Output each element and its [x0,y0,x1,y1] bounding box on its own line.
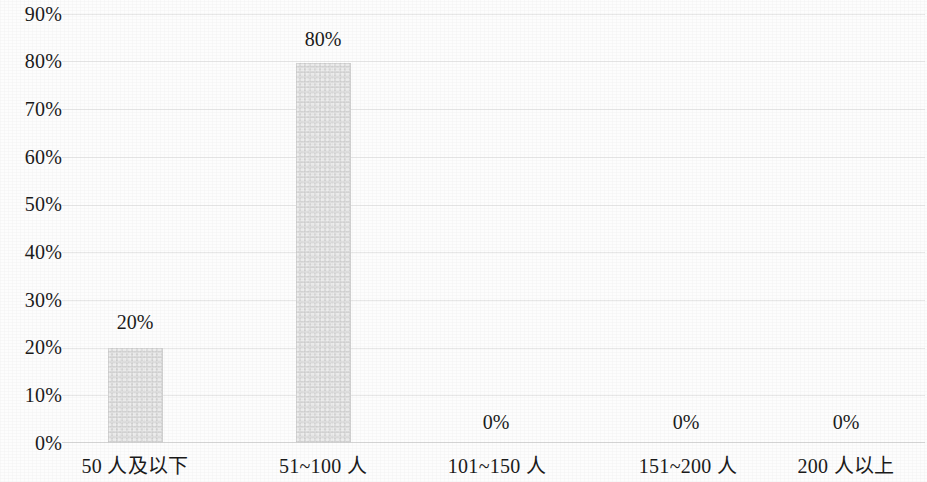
x-tick-label-1: 50 人及以下 [81,455,188,477]
bar-category-2 [296,63,351,443]
gridline-90 [62,14,925,15]
gridline-10 [62,395,925,396]
y-tick-label-40: 40% [4,242,62,262]
y-tick-label-50: 50% [4,194,62,214]
bar-category-1 [108,348,163,443]
bar-value-label-5: 0% [833,411,860,433]
gridline-50 [62,205,925,206]
bar-value-label-2: 80% [305,28,342,50]
x-tick-label-2: 51~100 人 [279,455,367,477]
gridline-30 [62,300,925,301]
gridline-80 [62,61,925,62]
y-axis: 90% 80% 70% 60% 50% 40% 30% 20% 10% 0% [0,0,62,482]
gridline-70 [62,109,925,110]
gridline-baseline-0 [62,442,925,443]
y-tick-label-30: 30% [4,290,62,310]
y-tick-label-90: 90% [4,4,62,24]
y-tick-label-0: 0% [4,433,62,453]
plot-area [62,14,925,443]
y-tick-label-60: 60% [4,147,62,167]
gridline-60 [62,157,925,158]
y-tick-label-80: 80% [4,51,62,71]
gridline-20 [62,348,925,349]
bar-value-label-4: 0% [673,411,700,433]
x-tick-label-4: 151~200 人 [639,455,738,477]
x-tick-label-3: 101~150 人 [448,455,547,477]
y-tick-label-10: 10% [4,385,62,405]
x-tick-label-5: 200 人以上 [797,455,894,477]
gridline-40 [62,252,925,253]
y-tick-label-20: 20% [4,337,62,357]
bar-chart: 90% 80% 70% 60% 50% 40% 30% 20% 10% 0% 2… [0,0,927,482]
bar-value-label-1: 20% [117,311,154,333]
bar-value-label-3: 0% [483,411,510,433]
y-tick-label-70: 70% [4,99,62,119]
